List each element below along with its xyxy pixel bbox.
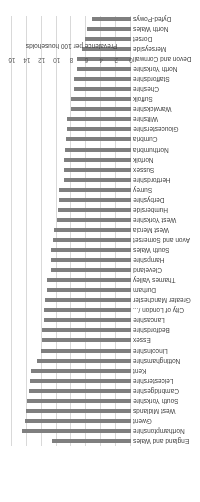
- bar-row: West Midlands: [0, 406, 131, 416]
- bar: [64, 158, 131, 162]
- bar: [42, 339, 131, 343]
- category-label: South Yorkshire: [133, 396, 199, 406]
- category-label: Gloucestershire: [133, 124, 199, 134]
- bar: [66, 138, 131, 142]
- category-label: England and Wales: [133, 436, 199, 446]
- bar: [31, 369, 131, 373]
- bar-row: Norfolk: [0, 155, 131, 165]
- bar-row: Cheshire: [0, 84, 131, 94]
- bar: [44, 318, 131, 322]
- bar: [64, 178, 131, 182]
- bar: [51, 248, 131, 252]
- bar-row: Hertfordshire: [0, 175, 131, 185]
- category-label: Dyfed-Powys: [133, 14, 199, 24]
- bar: [58, 208, 131, 212]
- x-tick-label: 4: [93, 57, 109, 64]
- bar: [85, 37, 131, 41]
- bar-row: South Wales: [0, 245, 131, 255]
- bar: [45, 298, 131, 302]
- bar: [51, 258, 131, 262]
- category-label: Humberside: [133, 205, 199, 215]
- category-label: West Mercia: [133, 225, 199, 235]
- bar: [77, 67, 131, 71]
- category-label: Bedfordshire: [133, 325, 199, 335]
- bar-row: Cleveland: [0, 265, 131, 275]
- category-label: Dorset: [133, 34, 199, 44]
- bar-row: Northumbria: [0, 145, 131, 155]
- category-label: North Yorkshire: [133, 64, 199, 74]
- bar: [67, 117, 131, 121]
- category-label: Hampshire: [133, 255, 199, 265]
- bar: [47, 278, 131, 282]
- category-label: Leicestershire: [133, 376, 199, 386]
- bar: [22, 429, 131, 433]
- category-label: Staffordshire: [133, 74, 199, 84]
- category-label: Hertfordshire: [133, 175, 199, 185]
- bar: [64, 168, 131, 172]
- category-label: Avon and Somerset: [133, 235, 199, 245]
- bar-row: Essex: [0, 336, 131, 346]
- category-label: City of London /...: [133, 305, 199, 315]
- bar-row: South Yorkshire: [0, 396, 131, 406]
- bar-row: Warwickshire: [0, 104, 131, 114]
- category-label: Kent: [133, 366, 199, 376]
- bar-row: Cambridgeshire: [0, 386, 131, 396]
- bar-row: Avon and Somerset: [0, 235, 131, 245]
- category-label: Cumbria: [133, 135, 199, 145]
- category-label: Sussex: [133, 165, 199, 175]
- bar: [47, 288, 131, 292]
- category-label: West Midlands: [133, 406, 199, 416]
- category-label: Suffolk: [133, 94, 199, 104]
- bar-row: City of London /...: [0, 305, 131, 315]
- bar: [53, 238, 131, 242]
- category-label: Greater Manchester: [133, 295, 199, 305]
- x-tick-label: 6: [78, 57, 94, 64]
- bar: [51, 268, 131, 272]
- bar-row: West Mercia: [0, 225, 131, 235]
- bar: [87, 27, 131, 31]
- bar: [37, 359, 131, 363]
- bar-row: Gwent: [0, 416, 131, 426]
- category-label: Norfolk: [133, 155, 199, 165]
- x-tick-label: 12: [34, 57, 50, 64]
- bar-row: West Yorkshire: [0, 215, 131, 225]
- bar-row: Staffordshire: [0, 74, 131, 84]
- bar: [27, 399, 131, 403]
- bar-row: Surrey: [0, 185, 131, 195]
- bar-row: Lancashire: [0, 315, 131, 325]
- bar: [44, 308, 131, 312]
- bar-row: Northamptonshire: [0, 426, 131, 436]
- category-label: Cambridgeshire: [133, 386, 199, 396]
- bar: [72, 107, 132, 111]
- bar: [67, 127, 131, 131]
- x-tick-label: 14: [19, 57, 35, 64]
- bar-row: Lincolnshire: [0, 346, 131, 356]
- bar: [25, 419, 131, 423]
- bar: [29, 389, 131, 393]
- category-label: Derbyshire: [133, 195, 199, 205]
- category-label: Wiltshire: [133, 114, 199, 124]
- category-label: Essex: [133, 336, 199, 346]
- bar: [65, 148, 131, 152]
- bar-row: England and Wales: [0, 436, 131, 446]
- bar-row: North Yorkshire: [0, 64, 131, 74]
- category-label: Warwickshire: [133, 104, 199, 114]
- bar: [59, 198, 131, 202]
- category-label: Northumbria: [133, 145, 199, 155]
- category-label: Cheshire: [133, 84, 199, 94]
- bar-row: Thames Valley: [0, 275, 131, 285]
- bar-row: Bedfordshire: [0, 325, 131, 335]
- bar: [59, 188, 131, 192]
- bar: [54, 228, 131, 232]
- bar-row: Wiltshire: [0, 114, 131, 124]
- bar-row: Gloucestershire: [0, 124, 131, 134]
- bar-row: Cumbria: [0, 135, 131, 145]
- category-label: Surrey: [133, 185, 199, 195]
- category-label: Nottinghamshire: [133, 356, 199, 366]
- category-label: Merseyside: [133, 44, 199, 54]
- bar-row: Nottinghamshire: [0, 356, 131, 366]
- bar: [52, 439, 131, 443]
- bar: [92, 17, 131, 21]
- category-label: Gwent: [133, 416, 199, 426]
- plot-area: England and WalesNorthamptonshireGwentWe…: [12, 16, 131, 446]
